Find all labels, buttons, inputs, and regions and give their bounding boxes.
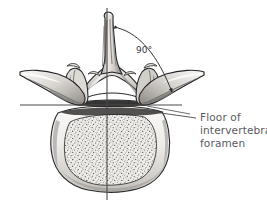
- anatomical-figure: 90° Floor of intervertebral foramen: [0, 0, 267, 215]
- spinous-process: [101, 12, 122, 74]
- callout-line-1: Floor of: [200, 111, 241, 123]
- callout-line-2: intervertebral: [200, 124, 267, 136]
- vertebra-illustration: 90° Floor of intervertebral foramen: [0, 0, 267, 215]
- angle-label: 90°: [136, 45, 152, 55]
- vertebral-body: [51, 106, 170, 192]
- callout-line-3: foramen: [200, 137, 245, 149]
